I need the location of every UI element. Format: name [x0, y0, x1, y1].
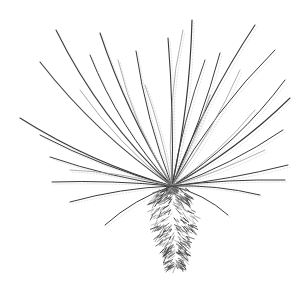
- crown-center: [165, 185, 179, 195]
- plant-illustration: [0, 0, 308, 285]
- background: [0, 0, 308, 285]
